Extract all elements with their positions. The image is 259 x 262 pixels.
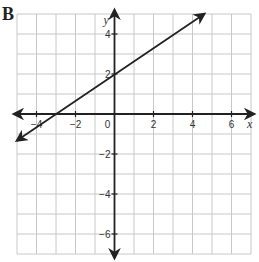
tick-labels: −4−2024642−2−4−6xy — [31, 13, 253, 240]
x-tick-label: 4 — [190, 119, 196, 130]
y-tick-label: −4 — [99, 189, 111, 200]
y-tick-label: −6 — [99, 229, 111, 240]
x-tick-label: 6 — [229, 119, 235, 130]
line-series — [17, 14, 204, 141]
x-axis-label: x — [246, 117, 253, 131]
y-tick-label: 4 — [105, 29, 111, 40]
grid-lines — [17, 14, 251, 254]
y-axis-label: y — [103, 13, 110, 27]
plotted-line — [17, 14, 204, 141]
x-tick-label: 0 — [105, 119, 111, 130]
coordinate-plane: −4−2024642−2−4−6xy — [0, 0, 259, 262]
x-tick-label: −2 — [70, 119, 82, 130]
x-tick-label: 2 — [151, 119, 157, 130]
y-tick-label: −2 — [99, 149, 111, 160]
